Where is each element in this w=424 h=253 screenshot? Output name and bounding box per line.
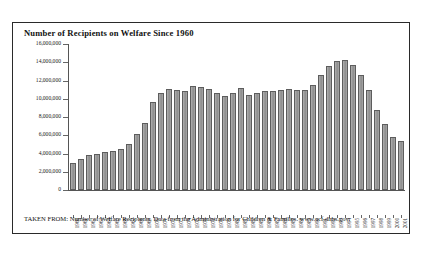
bar <box>374 110 380 190</box>
chart-source-note: TAKEN FROM: Number of Welfare Recipients… <box>24 215 399 223</box>
bar <box>230 93 236 190</box>
bar <box>94 154 100 190</box>
y-tick-mark <box>63 44 68 45</box>
bar <box>110 151 116 191</box>
bar-series <box>69 44 405 190</box>
chart-figure: Number of Recipients on Welfare Since 19… <box>12 22 410 234</box>
bar <box>214 93 220 190</box>
bar <box>350 65 356 190</box>
bar <box>70 163 76 190</box>
bar <box>262 91 268 190</box>
y-tick-label: 12,000,000 <box>36 78 61 84</box>
bar <box>238 88 244 190</box>
y-tick-label: 14,000,000 <box>36 59 61 65</box>
plot-area: 16,000,00014,000,00012,000,00010,000,000… <box>13 41 411 199</box>
bar <box>390 137 396 190</box>
bar <box>126 144 132 190</box>
bar <box>254 93 260 190</box>
chart-title: Number of Recipients on Welfare Since 19… <box>24 28 194 38</box>
bar <box>134 134 140 190</box>
bar <box>286 89 292 190</box>
bar <box>382 124 388 190</box>
bar <box>174 90 180 190</box>
bar <box>166 89 172 190</box>
y-tick-label: 0 <box>58 187 61 193</box>
bar <box>78 159 84 190</box>
bar <box>318 75 324 190</box>
y-tick-mark <box>63 172 68 173</box>
y-tick-mark <box>63 81 68 82</box>
bar <box>334 61 340 190</box>
bar <box>102 152 108 190</box>
y-tick-label: 4,000,000 <box>39 151 61 157</box>
bar <box>294 90 300 190</box>
bar <box>142 123 148 190</box>
y-tick-mark <box>63 154 68 155</box>
y-tick-mark <box>63 135 68 136</box>
x-axis-line <box>68 190 405 191</box>
bar <box>118 149 124 190</box>
bar <box>222 96 228 190</box>
bar <box>198 87 204 190</box>
y-tick-label: 6,000,000 <box>39 132 61 138</box>
bar <box>206 89 212 190</box>
y-tick-label: 8,000,000 <box>39 114 61 120</box>
bar <box>358 75 364 190</box>
y-tick-mark <box>63 99 68 100</box>
bar <box>366 90 372 190</box>
y-tick-label: 10,000,000 <box>36 96 61 102</box>
bar <box>270 91 276 190</box>
bar <box>150 102 156 190</box>
x-tick-label: 2001 <box>403 218 408 228</box>
bar <box>86 155 92 190</box>
bar <box>342 60 348 190</box>
bar <box>302 90 308 190</box>
bar <box>158 93 164 190</box>
bar <box>326 66 332 190</box>
y-tick-mark <box>63 117 68 118</box>
bar <box>310 85 316 190</box>
y-tick-mark <box>63 62 68 63</box>
bar <box>246 95 252 190</box>
y-tick-mark <box>63 190 68 191</box>
y-tick-label: 16,000,000 <box>36 41 61 47</box>
bar <box>398 141 404 190</box>
bar <box>182 91 188 190</box>
bar <box>190 86 196 190</box>
y-tick-label: 2,000,000 <box>39 169 61 175</box>
bar <box>278 90 284 190</box>
